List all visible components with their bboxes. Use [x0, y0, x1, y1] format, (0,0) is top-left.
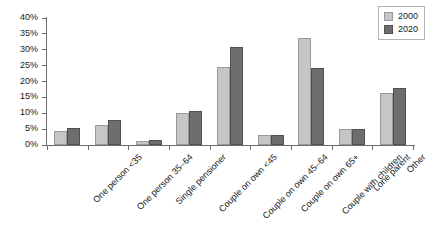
y-axis-tick-label: 0%	[0, 139, 38, 150]
y-axis-tick-mark	[42, 81, 46, 82]
x-axis-tick-mark	[47, 146, 48, 150]
bar-2000-couple-with-children	[298, 38, 311, 145]
bar-chart: 0%5%10%15%20%25%30%35%40% One person <35…	[0, 0, 431, 226]
y-axis-tick-mark	[42, 49, 46, 50]
x-axis-tick-mark	[250, 146, 251, 150]
x-axis-label: One person <35	[91, 152, 144, 205]
x-axis-tick-mark	[372, 146, 373, 150]
bar-2000-single-pensioner	[136, 141, 149, 145]
bar-2020-lone-parent	[352, 129, 365, 146]
y-axis-tick-label: 10%	[0, 107, 38, 118]
x-axis-label-text: One person 35–64	[135, 152, 195, 212]
x-axis-label: One person 35–64	[135, 152, 195, 212]
bar-2020-other	[393, 88, 406, 145]
y-axis-tick-label: 35%	[0, 28, 38, 39]
legend-swatch-icon-2000	[384, 12, 393, 21]
bar-2020-one-person-35	[67, 128, 80, 145]
bar-2020-couple-on-own-65-	[271, 135, 284, 145]
y-axis-tick-label: 20%	[0, 76, 38, 87]
y-axis-tick-label: 30%	[0, 44, 38, 55]
x-axis-label-text: One person <35	[91, 152, 144, 205]
bar-2000-one-person-35	[54, 131, 67, 145]
bar-2000-lone-parent	[339, 129, 352, 146]
x-axis-tick-mark	[332, 146, 333, 150]
bar-2000-other	[380, 93, 393, 145]
bar-2000-couple-on-own-45	[176, 113, 189, 145]
bar-2000-couple-on-own-65-	[258, 135, 271, 145]
legend-label-2000: 2000	[398, 11, 418, 22]
y-axis-tick-mark	[42, 18, 46, 19]
y-axis-tick-mark	[42, 113, 46, 114]
x-axis-tick-mark	[291, 146, 292, 150]
legend: 2000 2020	[378, 6, 425, 40]
x-axis-tick-mark	[169, 146, 170, 150]
x-axis-tick-mark	[210, 146, 211, 150]
y-axis-tick-label: 5%	[0, 123, 38, 134]
y-axis-tick-label: 25%	[0, 60, 38, 71]
bar-2020-couple-with-children	[311, 68, 324, 145]
legend-swatch-icon-2020	[384, 25, 393, 34]
x-axis-tick-mark	[413, 146, 414, 150]
legend-item-2020[interactable]: 2020	[384, 23, 418, 36]
y-axis-tick-mark	[42, 145, 46, 146]
y-axis-tick-mark	[42, 97, 46, 98]
y-axis-tick-label: 15%	[0, 91, 38, 102]
bar-2020-single-pensioner	[149, 140, 162, 145]
x-axis-tick-mark	[128, 146, 129, 150]
legend-item-2000[interactable]: 2000	[384, 10, 418, 23]
y-axis-tick-label: 40%	[0, 12, 38, 23]
bar-2020-couple-on-own-45-64	[230, 47, 243, 145]
y-axis-tick-mark	[42, 33, 46, 34]
y-axis-tick-mark	[42, 129, 46, 130]
bar-2020-one-person-35-64	[108, 120, 121, 145]
legend-label-2020: 2020	[398, 24, 418, 35]
bar-2000-couple-on-own-45-64	[217, 67, 230, 145]
plot-area	[47, 18, 413, 145]
x-axis-line	[46, 145, 415, 146]
x-axis-tick-mark	[88, 146, 89, 150]
y-axis-tick-mark	[42, 65, 46, 66]
bar-2000-one-person-35-64	[95, 125, 108, 145]
bar-2020-couple-on-own-45	[189, 111, 202, 145]
